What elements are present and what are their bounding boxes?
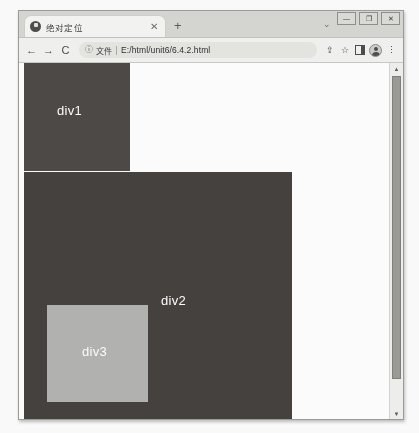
vertical-scrollbar[interactable]: ▲ ▼ <box>389 63 403 419</box>
address-bar[interactable]: ⓘ 文件 E:/html/unit6/6.4.2.html <box>79 42 317 58</box>
tab-title: 绝对定位 <box>46 21 83 33</box>
div3-block: div3 <box>47 305 148 402</box>
maximize-button[interactable]: ❐ <box>359 12 378 25</box>
side-panel-glyph <box>355 45 365 55</box>
share-icon[interactable]: ⇪ <box>322 43 337 58</box>
site-info-icon[interactable]: ⓘ <box>85 46 93 54</box>
window-controls: — ❐ ✕ <box>337 12 400 25</box>
scroll-down-arrow-icon[interactable]: ▼ <box>390 408 403 419</box>
side-panel-icon[interactable] <box>352 43 367 58</box>
minimize-button[interactable]: — <box>337 12 356 25</box>
div2-block: div2 div3 <box>24 172 292 419</box>
page-content: div2 div3 div1 <box>19 63 389 419</box>
chevron-down-icon[interactable]: ⌄ <box>323 20 331 29</box>
page-viewport: div2 div3 div1 ▲ ▼ <box>19 63 403 419</box>
new-tab-button[interactable]: + <box>174 19 182 32</box>
menu-icon[interactable]: ⋮ <box>384 43 399 58</box>
avatar[interactable] <box>369 44 382 57</box>
div1-label: div1 <box>57 103 82 118</box>
browser-window: 绝对定位 ✕ + ⌄ — ❐ ✕ ← → C ⓘ 文件 E:/html/unit… <box>18 10 404 420</box>
div1-block: div1 <box>24 63 130 171</box>
div2-label: div2 <box>161 293 186 308</box>
globe-icon <box>30 21 41 32</box>
forward-icon[interactable]: → <box>40 42 57 59</box>
browser-tab[interactable]: 绝对定位 ✕ <box>24 15 166 37</box>
back-icon[interactable]: ← <box>23 42 40 59</box>
close-icon[interactable]: ✕ <box>148 22 160 32</box>
reload-icon[interactable]: C <box>57 42 74 59</box>
scheme-label: 文件 <box>96 45 112 56</box>
bookmark-star-icon[interactable]: ☆ <box>337 43 352 58</box>
div3-label: div3 <box>82 344 107 359</box>
url-text: E:/html/unit6/6.4.2.html <box>121 45 210 55</box>
scrollbar-thumb[interactable] <box>392 76 401 379</box>
tab-strip: 绝对定位 ✕ + ⌄ — ❐ ✕ <box>19 11 403 38</box>
scroll-up-arrow-icon[interactable]: ▲ <box>390 63 403 74</box>
close-button[interactable]: ✕ <box>381 12 400 25</box>
browser-toolbar: ← → C ⓘ 文件 E:/html/unit6/6.4.2.html ⇪ ☆ … <box>19 38 403 63</box>
url-divider <box>116 46 117 55</box>
